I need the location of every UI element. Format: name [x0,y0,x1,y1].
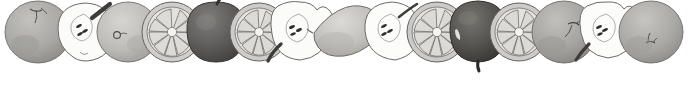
fruit-border-illustration [0,0,688,94]
fruit-whole-apple-gray [0,0,688,94]
